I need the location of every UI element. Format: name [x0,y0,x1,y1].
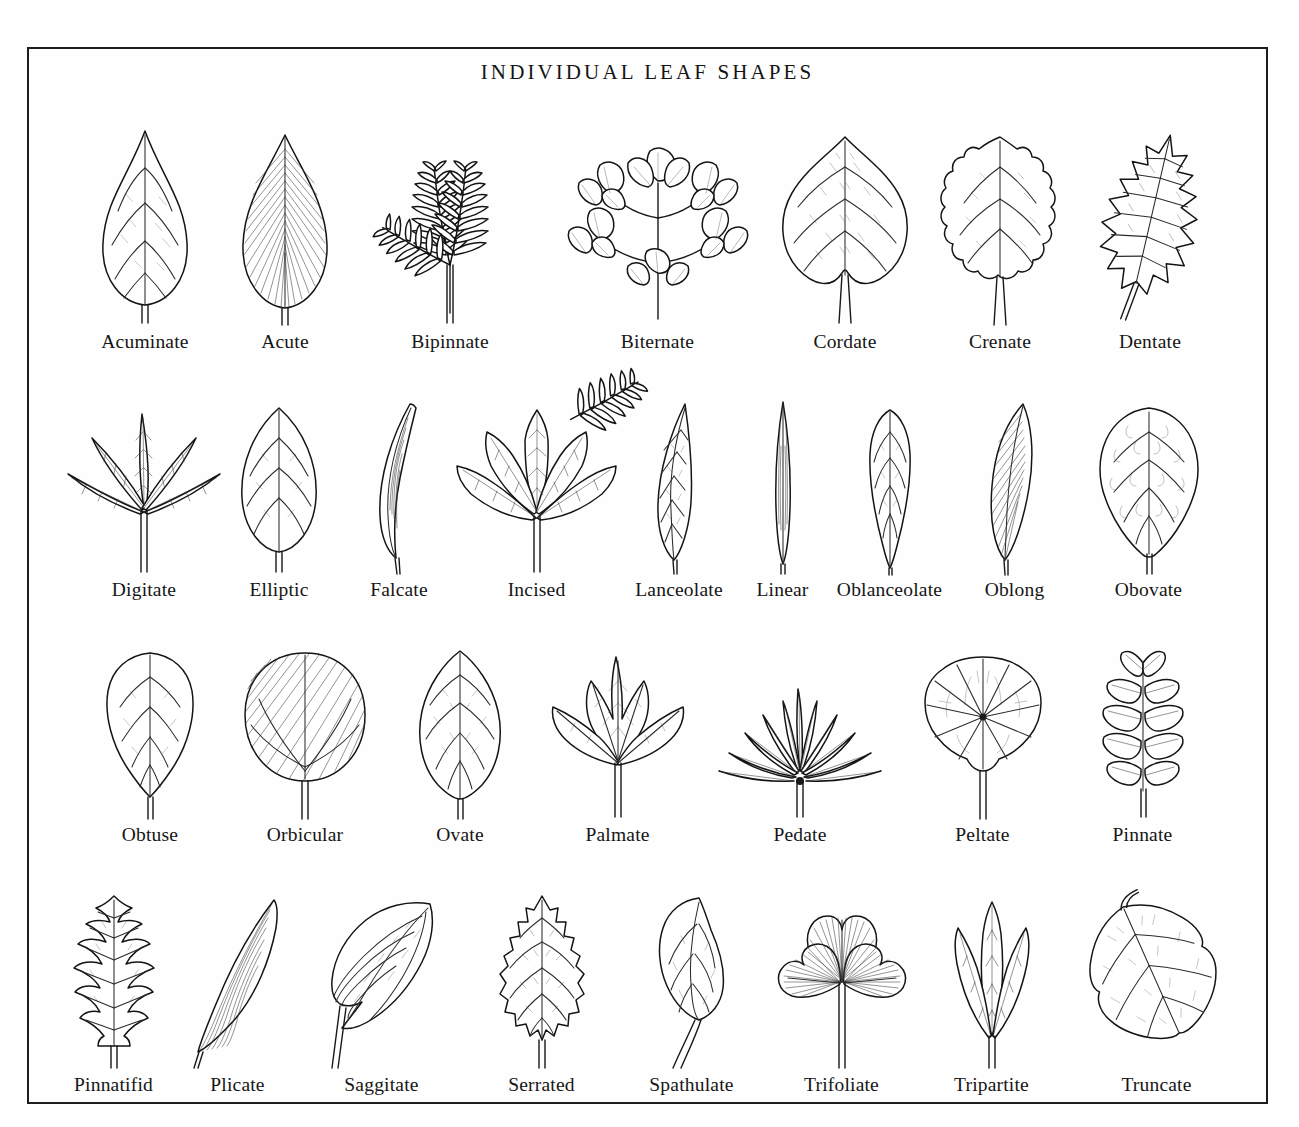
leaf-shapes-plate: INDIVIDUAL LEAF SHAPES [27,47,1268,1104]
dentate-leaf-figure [1085,123,1215,328]
leaf-item-crenate[interactable]: Crenate [925,123,1075,352]
leaf-label: Truncate [1121,1075,1191,1095]
leaf-item-ovate[interactable]: Ovate [385,641,535,845]
ovate-leaf-figure [400,641,520,821]
leaf-item-elliptic[interactable]: Elliptic [217,396,342,600]
plicate-leaf-figure [188,886,288,1071]
digitate-leaf-figure [54,396,234,576]
spathulate-leaf-figure [637,886,747,1071]
saggitate-leaf-figure [302,886,462,1071]
leaf-item-biternate[interactable]: Biternate [550,123,765,352]
orbicular-leaf-figure [235,641,375,821]
leaf-item-incised[interactable]: Incised [457,396,617,600]
falcate-leaf-figure [364,396,434,576]
leaf-row-1: Acuminate Acut [29,61,1266,351]
leaf-item-lanceolate[interactable]: Lanceolate [617,396,742,600]
incised-leaf-figure [449,396,624,576]
leaf-item-spathulate[interactable]: Spathulate [617,886,767,1095]
truncate-leaf-figure [1064,886,1249,1071]
leaf-label: Saggitate [344,1075,418,1095]
leaf-label: Serrated [508,1075,575,1095]
leaf-item-falcate[interactable]: Falcate [342,396,457,600]
leaf-label: Tripartite [954,1075,1029,1095]
oblong-leaf-figure [975,396,1055,576]
leaf-label: Trifoliate [804,1075,879,1095]
leaf-item-acuminate[interactable]: Acuminate [70,123,220,352]
acuminate-leaf-figure [85,123,205,328]
leaf-item-pedate[interactable]: Pedate [700,641,900,845]
obtuse-leaf-figure [90,641,210,821]
leaf-item-digitate[interactable]: Digitate [72,396,217,600]
oblanceolate-leaf-figure [859,396,921,576]
elliptic-leaf-figure [224,396,334,576]
pedate-leaf-figure [695,641,905,821]
leaf-row-3: Obtuse Orbicular [29,594,1266,844]
leaf-item-pinnatifid[interactable]: Pinnatifid [49,886,179,1095]
linear-leaf-figure [767,396,799,576]
leaf-item-palmate[interactable]: Palmate [535,641,700,845]
leaf-item-acute[interactable]: Acute [220,123,350,352]
biternate-leaf-figure [552,123,764,328]
leaf-row-2: Digitate Elliptic [29,349,1266,599]
leaf-item-plicate[interactable]: Plicate [179,886,297,1095]
acute-leaf-figure [228,123,342,328]
leaf-label: Plicate [210,1075,264,1095]
leaf-label: Pinnatifid [74,1075,153,1095]
leaf-item-oblong[interactable]: Oblong [956,396,1074,600]
crenate-leaf-figure [930,123,1070,328]
leaf-item-tripartite[interactable]: Tripartite [917,886,1067,1095]
bipinnate-leaf-figure [352,123,548,328]
lanceolate-leaf-figure [641,396,717,576]
leaf-item-oblanceolate[interactable]: Oblanceolate [824,396,956,600]
leaf-item-orbicular[interactable]: Orbicular [225,641,385,845]
leaf-item-peltate[interactable]: Peltate [900,641,1065,845]
leaf-item-obovate[interactable]: Obovate [1074,396,1224,600]
leaf-item-obtuse[interactable]: Obtuse [75,641,225,845]
leaf-item-bipinnate[interactable]: Bipinnate [350,123,550,352]
tripartite-leaf-figure [927,886,1057,1071]
leaf-item-pinnate[interactable]: Pinnate [1065,641,1220,845]
obovate-leaf-figure [1084,396,1214,576]
pinnatifid-leaf-figure [64,886,164,1071]
leaf-item-dentate[interactable]: Dentate [1075,123,1225,352]
leaf-row-4: Pinnatifid Plicate [29,839,1266,1094]
leaf-item-trifoliate[interactable]: Trifoliate [767,886,917,1095]
palmate-leaf-figure [533,641,703,821]
leaf-label: Spathulate [649,1075,733,1095]
leaf-item-serrated[interactable]: Serrated [467,886,617,1095]
leaf-item-truncate[interactable]: Truncate [1067,886,1247,1095]
leaf-item-saggitate[interactable]: Saggitate [297,886,467,1095]
cordate-leaf-figure [770,123,920,328]
serrated-leaf-figure [482,886,602,1071]
trifoliate-leaf-figure [772,886,912,1071]
peltate-leaf-figure [913,641,1053,821]
leaf-item-cordate[interactable]: Cordate [765,123,925,352]
leaf-item-linear[interactable]: Linear [742,396,824,600]
pinnate-leaf-figure [1078,641,1208,821]
